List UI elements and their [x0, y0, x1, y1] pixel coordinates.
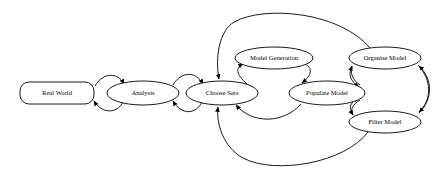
edge-model-generation-to-populate-model [302, 64, 310, 83]
node-model-generation[interactable]: Model Generation [235, 47, 313, 69]
nodes-layer: Real World Analysis Choose Sets Model Ge… [20, 47, 421, 133]
diagram-canvas: Real World Analysis Choose Sets Model Ge… [0, 0, 443, 179]
edge-organise-model-to-choose-sets [218, 13, 370, 79]
edge-populate-model-to-organise-model [351, 66, 360, 85]
edge-organise-model-to-filter-model [418, 65, 429, 112]
node-analysis-label: Analysis [131, 89, 155, 96]
node-populate-model-label: Populate Model [306, 89, 348, 96]
edge-choose-sets-to-analysis [173, 101, 202, 112]
node-analysis[interactable]: Analysis [107, 81, 179, 105]
node-filter-model[interactable]: Filter Model [349, 111, 421, 133]
node-organise-model-label: Organise Model [364, 54, 407, 61]
node-real-world[interactable]: Real World [20, 82, 94, 104]
edge-analysis-to-choose-sets [173, 74, 203, 85]
node-populate-model[interactable]: Populate Model [289, 81, 365, 105]
edge-analysis-to-real-world [94, 101, 123, 111]
node-filter-model-label: Filter Model [368, 118, 401, 125]
node-real-world-label: Real World [42, 89, 73, 96]
node-choose-sets-label: Choose Sets [206, 89, 239, 96]
edge-populate-model-to-choose-sets [236, 104, 301, 119]
node-organise-model[interactable]: Organise Model [349, 47, 421, 69]
node-choose-sets[interactable]: Choose Sets [186, 81, 258, 105]
flow-diagram: Real World Analysis Choose Sets Model Ge… [0, 0, 443, 179]
edge-filter-model-to-choose-sets [218, 107, 368, 166]
edge-choose-sets-to-model-generation [238, 64, 247, 84]
node-model-generation-label: Model Generation [250, 54, 299, 61]
